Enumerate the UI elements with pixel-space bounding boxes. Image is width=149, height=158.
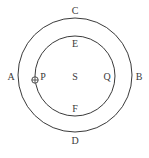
- label-a: A: [7, 71, 15, 82]
- label-b: B: [136, 71, 143, 82]
- label-p: P: [40, 71, 46, 82]
- label-e: E: [72, 38, 78, 49]
- label-d: D: [71, 135, 78, 146]
- label-c: C: [72, 5, 79, 16]
- orbit-diagram: C D A B E F P S Q: [0, 0, 149, 158]
- label-s: S: [72, 71, 78, 82]
- label-f: F: [72, 103, 78, 114]
- planet-body-icon: [32, 77, 38, 83]
- label-q: Q: [103, 71, 111, 82]
